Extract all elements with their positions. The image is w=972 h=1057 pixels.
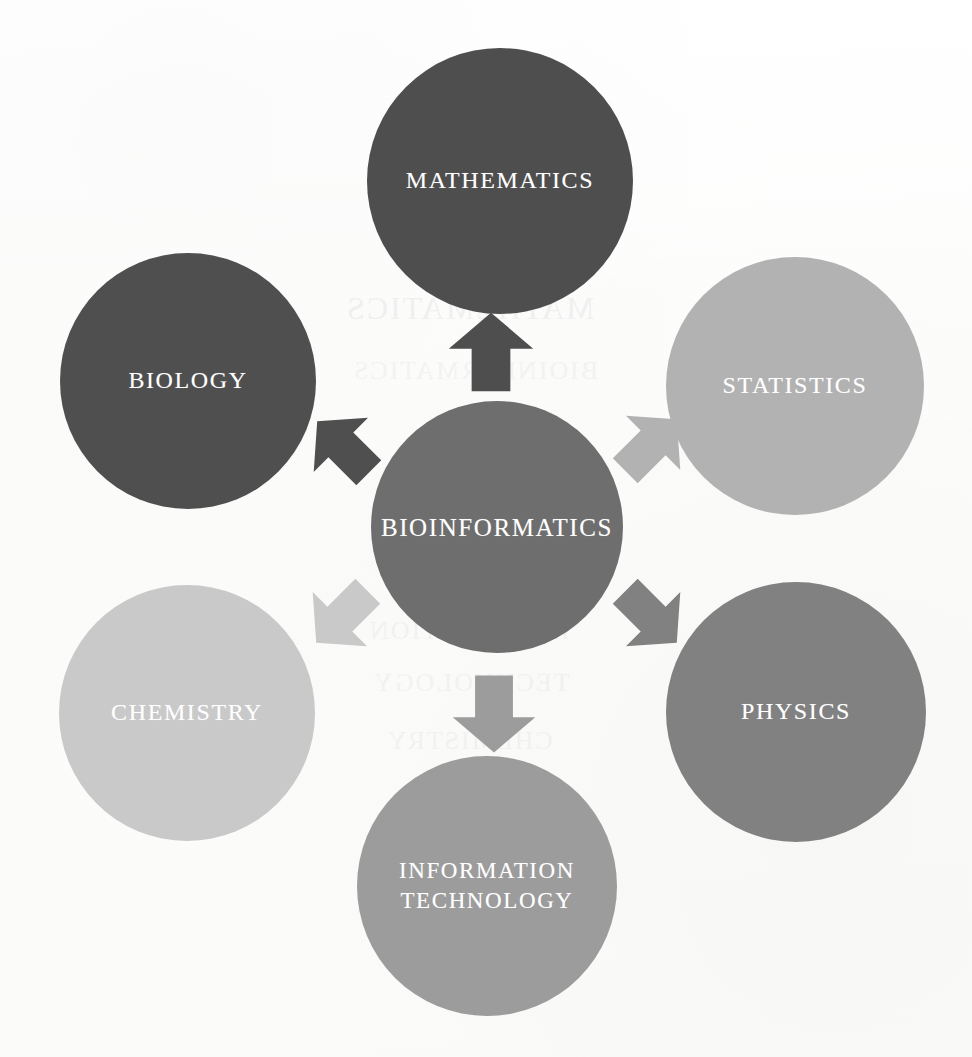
node-label-information-technology: INFORMATION TECHNOLOGY xyxy=(389,856,585,917)
node-label-mathematics: MATHEMATICS xyxy=(396,165,604,197)
node-physics[interactable]: PHYSICS xyxy=(666,582,926,842)
node-statistics[interactable]: STATISTICS xyxy=(666,257,924,515)
node-layer: MATHEMATICSBIOLOGYSTATISTICSCHEMISTRYPHY… xyxy=(0,0,972,1057)
node-biology[interactable]: BIOLOGY xyxy=(60,253,316,509)
node-information-technology[interactable]: INFORMATION TECHNOLOGY xyxy=(357,756,617,1016)
node-label-statistics: STATISTICS xyxy=(713,370,878,402)
diagram-canvas: MATHEMATICSBIOINFORMATICSINFORMATIONTECH… xyxy=(0,0,972,1057)
node-bioinformatics[interactable]: BIOINFORMATICS xyxy=(371,401,623,653)
node-mathematics[interactable]: MATHEMATICS xyxy=(367,48,633,314)
node-chemistry[interactable]: CHEMISTRY xyxy=(59,585,315,841)
node-label-chemistry: CHEMISTRY xyxy=(101,697,273,729)
node-label-biology: BIOLOGY xyxy=(118,365,257,397)
node-label-bioinformatics: BIOINFORMATICS xyxy=(371,511,623,544)
node-label-physics: PHYSICS xyxy=(731,696,861,728)
